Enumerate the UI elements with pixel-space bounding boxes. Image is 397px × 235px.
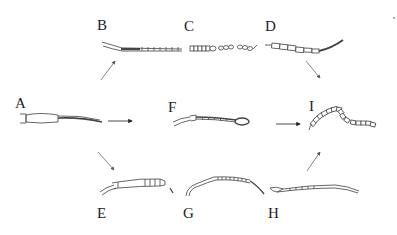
structure-h: [270, 185, 359, 193]
label-d: D: [265, 18, 276, 34]
arrow-a-to-b: [101, 61, 115, 80]
evolution-diagram: A B C D E F G H I: [0, 0, 397, 235]
label-i: I: [309, 98, 314, 114]
label-e: E: [97, 205, 106, 221]
structure-g: [186, 177, 264, 196]
structure-f: [173, 115, 249, 126]
arrow-d-to-i: [306, 61, 320, 78]
label-a: A: [15, 95, 26, 111]
arrow-h-to-i: [307, 152, 320, 171]
label-g: G: [183, 205, 194, 221]
structure-d: [265, 40, 343, 53]
structure-b: [102, 42, 182, 51]
structure-c: [190, 45, 257, 51]
label-f: F: [168, 99, 176, 115]
label-c: C: [184, 18, 194, 34]
arrow-a-to-e: [98, 152, 114, 170]
label-h: H: [268, 205, 279, 221]
structure-i: [309, 106, 376, 130]
structure-e: [100, 179, 173, 195]
label-b: B: [97, 17, 107, 33]
structure-a: [20, 114, 102, 124]
dot-mark: [393, 17, 395, 19]
